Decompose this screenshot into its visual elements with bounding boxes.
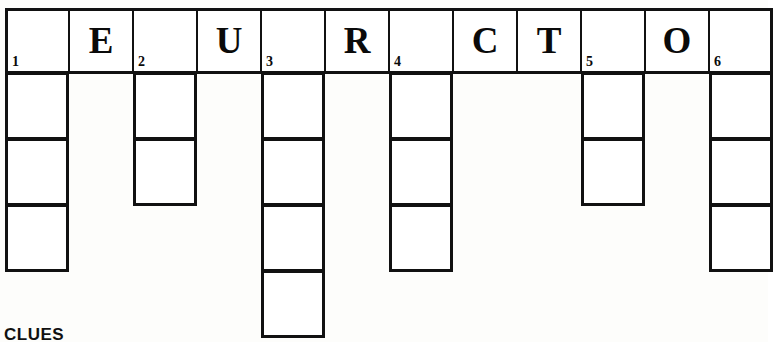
crossword-cell-start-2[interactable]: 2	[133, 8, 197, 74]
crossword-cell[interactable]	[261, 206, 325, 272]
crossword-cell[interactable]	[389, 140, 453, 206]
crossword-cell[interactable]	[709, 206, 773, 272]
crossword-cell[interactable]	[133, 140, 197, 206]
crossword-cell[interactable]: U	[197, 8, 261, 74]
crossword-cell-start-6[interactable]: 6	[709, 8, 773, 74]
crossword-cell-start-3[interactable]: 3	[261, 8, 325, 74]
crossword-cell-start-4[interactable]: 4	[389, 8, 453, 74]
clue-number: 4	[394, 55, 401, 69]
crossword-cell[interactable]	[5, 140, 69, 206]
crossword-cell[interactable]: C	[453, 8, 517, 74]
crossword-cell[interactable]	[581, 140, 645, 206]
crossword-cell[interactable]	[389, 74, 453, 140]
clue-number: 3	[266, 55, 273, 69]
clue-number: 2	[138, 55, 145, 69]
crossword-cell[interactable]	[133, 74, 197, 140]
crossword-cell[interactable]	[5, 74, 69, 140]
crossword-cell[interactable]: E	[69, 8, 133, 74]
cell-letter: R	[326, 22, 388, 59]
cell-letter: U	[198, 22, 260, 59]
crossword-cell-start-5[interactable]: 5	[581, 8, 645, 74]
clue-number: 1	[12, 55, 19, 69]
crossword-cell[interactable]	[709, 74, 773, 140]
cell-letter: E	[70, 22, 132, 59]
crossword-cell[interactable]	[709, 140, 773, 206]
crossword-cell[interactable]	[389, 206, 453, 272]
crossword-cell[interactable]	[261, 74, 325, 140]
clue-number: 5	[586, 55, 593, 69]
crossword-cell[interactable]: R	[325, 8, 389, 74]
crossword-cell[interactable]	[261, 272, 325, 338]
crossword-cell[interactable]	[581, 74, 645, 140]
cell-letter: C	[454, 22, 516, 59]
clues-heading: CLUES	[4, 325, 64, 342]
cell-letter: T	[518, 22, 580, 59]
crossword-cell[interactable]	[5, 206, 69, 272]
crossword-cell[interactable]: O	[645, 8, 709, 74]
clue-number: 6	[714, 55, 721, 69]
cell-letter: O	[646, 22, 708, 59]
crossword-cell-start-1[interactable]: 1	[5, 8, 69, 74]
crossword-cell[interactable]: T	[517, 8, 581, 74]
crossword-cell[interactable]	[261, 140, 325, 206]
